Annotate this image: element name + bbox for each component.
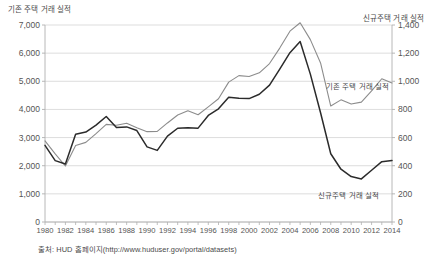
x-tick: 1980	[37, 226, 54, 235]
x-tick: 1984	[77, 226, 94, 235]
y-tick-left: 2,000	[6, 161, 40, 171]
source-note: 출처: HUD 홈페이지(http://www.huduser.gov/port…	[38, 243, 237, 254]
x-tick: 2014	[384, 226, 401, 235]
series-label-existing: 기존 주택 거래 실적	[326, 80, 389, 91]
y-tick-right: 200	[398, 189, 430, 199]
y-tick-left: 6,000	[6, 48, 40, 58]
x-tick: 1994	[179, 226, 196, 235]
x-tick: 1988	[118, 226, 135, 235]
x-tick: 2010	[343, 226, 360, 235]
y-tick-left: 1,000	[6, 189, 40, 199]
x-tick: 2006	[302, 226, 319, 235]
x-tick: 1998	[220, 226, 237, 235]
y-tick-right: 800	[398, 104, 430, 114]
y-tick-right: 600	[398, 133, 430, 143]
x-tick: 1996	[200, 226, 217, 235]
left-axis-tick-labels: 01,0002,0003,0004,0005,0006,0007,000	[2, 0, 40, 259]
right-axis-tick-labels: 02004006008001,0001,2001,400	[392, 0, 430, 259]
series-label-new: 신규주택 거래 실적	[318, 189, 379, 200]
x-tick: 2012	[363, 226, 380, 235]
y-tick-right: 1,400	[398, 20, 430, 30]
x-tick: 1990	[139, 226, 156, 235]
plot-area	[0, 0, 430, 259]
x-axis-tick-labels: 1980198219841986198819901992199419961998…	[0, 226, 430, 240]
x-tick: 2008	[322, 226, 339, 235]
x-tick: 1982	[57, 226, 74, 235]
chart-container: 기존 주택 거래 실적 신규주택 거래 실적 01,0002,0003,0004…	[0, 0, 430, 259]
y-tick-right: 1,200	[398, 48, 430, 58]
series-lines	[45, 23, 392, 179]
x-tick: 2004	[281, 226, 298, 235]
x-tick: 1992	[159, 226, 176, 235]
y-tick-right: 400	[398, 161, 430, 171]
y-tick-left: 3,000	[6, 133, 40, 143]
y-tick-right: 1,000	[398, 76, 430, 86]
x-tick: 2002	[261, 226, 278, 235]
x-tick: 2000	[241, 226, 258, 235]
y-tick-left: 4,000	[6, 104, 40, 114]
y-tick-left: 5,000	[6, 76, 40, 86]
y-tick-left: 7,000	[6, 20, 40, 30]
x-tick: 1986	[98, 226, 115, 235]
